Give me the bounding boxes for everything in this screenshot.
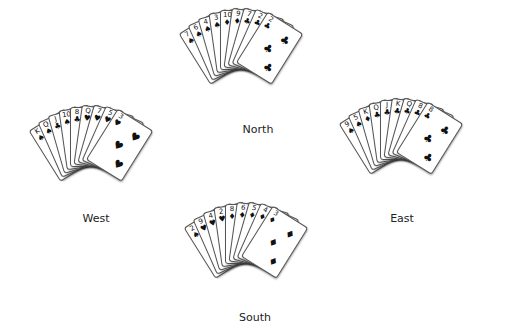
hand-north: 7♠6♠4♠3♠10♦9♦7♣2♣2♣♣♣♣ <box>240 68 241 69</box>
suit-pip-icon: ♥ <box>110 157 125 173</box>
suit-pip-icon: ♦ <box>265 254 280 270</box>
card-corner-index: 2♣ <box>262 15 276 31</box>
suit-icon: ♦ <box>267 215 277 225</box>
suit-icon: ♣ <box>262 21 272 31</box>
suit-pip-icon: ♣ <box>420 150 435 166</box>
card-corner-index: 3♥ <box>112 112 126 128</box>
suit-pip-icon: ♦ <box>282 227 297 243</box>
suit-pip-icon: ♥ <box>110 138 125 154</box>
seat-label-west: West <box>82 212 109 225</box>
seat-label-south: South <box>239 311 271 324</box>
card-corner-index: 8♣ <box>422 105 436 121</box>
suit-pip-icon: ♣ <box>437 123 452 139</box>
suit-pip-icon: ♦ <box>265 235 280 251</box>
hand-west: K♠Q♠J♣10♠8♣Q♥7♥5♥3♥♥♥♥ <box>90 165 91 166</box>
card-corner-index: 3♦ <box>267 209 281 225</box>
suit-pip-icon: ♥ <box>127 130 142 146</box>
seat-label-north: North <box>243 123 274 136</box>
suit-icon: ♥ <box>112 118 122 128</box>
seat-label-east: East <box>390 212 414 225</box>
suit-icon: ♣ <box>422 111 432 121</box>
hand-east: 9♠5♠K♦Q♣J♣K♣Q♣8♣8♣♣♣♣ <box>400 158 401 159</box>
suit-pip-icon: ♣ <box>260 41 275 57</box>
suit-pip-icon: ♣ <box>420 131 435 147</box>
hand-south: 2♠9♥4♥2♥8♦6♦5♦4♦3♦♦♦♦ <box>245 262 246 263</box>
suit-pip-icon: ♣ <box>277 33 292 49</box>
suit-pip-icon: ♣ <box>260 60 275 76</box>
